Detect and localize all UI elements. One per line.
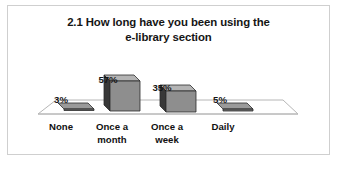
value-label-once-a-week: 35%: [145, 82, 179, 93]
category-label-once-a-week: Once a week: [139, 121, 195, 146]
category-label-none-line-1: None: [49, 121, 73, 132]
chart-title-line-1: 2.1 How long have you been using the: [8, 15, 329, 30]
category-label-once-a-week-line-2: week: [155, 134, 178, 145]
value-label-none: 3%: [44, 94, 78, 105]
category-label-once-a-week-line-1: Once a: [151, 121, 183, 132]
bar-daily-front: [223, 109, 253, 111]
category-label-daily: Daily: [195, 121, 251, 134]
bar-once-a-month-front: [110, 81, 140, 111]
category-label-once-a-month: Once a month: [84, 121, 140, 146]
plot-area: 3% 57% 35% 5%: [8, 58, 331, 118]
chart-title: 2.1 How long have you been using the e-l…: [8, 15, 329, 45]
category-label-once-a-month-line-2: month: [97, 134, 126, 145]
category-label-daily-line-1: Daily: [212, 121, 235, 132]
value-label-once-a-month: 57%: [91, 74, 125, 85]
category-axis: None Once a month Once a week Daily: [8, 121, 331, 155]
category-label-once-a-month-line-1: Once a: [96, 121, 128, 132]
category-label-none: None: [33, 121, 89, 134]
chart-title-line-2: e-library section: [8, 30, 329, 45]
value-label-daily: 5%: [203, 94, 237, 105]
bar-none-front: [64, 109, 94, 111]
bar-once-a-week-front: [166, 91, 196, 112]
chart-frame: 2.1 How long have you been using the e-l…: [7, 5, 330, 155]
